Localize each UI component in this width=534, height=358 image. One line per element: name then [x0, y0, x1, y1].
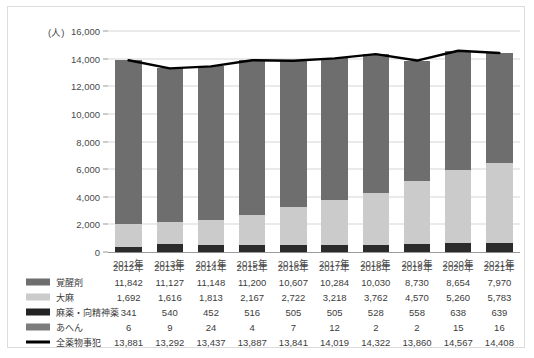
table-row: 覚醒剤11,84211,12711,14811,20010,60710,2841… — [8, 274, 526, 289]
table-cell: 1,616 — [158, 291, 182, 302]
figure-container: (人) 02,0004,0006,0008,00010,00012,00014,… — [7, 6, 525, 348]
legend-swatch-narc — [26, 308, 50, 315]
table-cell: 505 — [327, 306, 343, 317]
table-cell: 639 — [491, 306, 507, 317]
table-column-header: 2016年 — [278, 260, 309, 274]
table-cell: 452 — [203, 306, 219, 317]
table-cell: 13,881 — [114, 336, 143, 347]
table-column-header: 2020年 — [443, 260, 474, 274]
table-cell: 638 — [450, 306, 466, 317]
table-cell: 13,841 — [279, 336, 308, 347]
table-column-header: 2012年 — [113, 260, 144, 274]
table-cell: 2 — [373, 321, 378, 332]
table-cell: 14,322 — [361, 336, 390, 347]
table-cell: 11,127 — [156, 276, 184, 287]
table-cell: 7,970 — [488, 276, 512, 287]
table-column-header: 2019年 — [401, 260, 432, 274]
table-cell: 4 — [250, 321, 255, 332]
total-line-series — [8, 7, 526, 257]
table-row: あへん69244712221516 — [8, 319, 526, 334]
table-row: 大麻1,6921,6161,8132,1672,7223,2183,7624,5… — [8, 289, 526, 304]
table-cell: 11,148 — [197, 276, 225, 287]
table-cell: 14,408 — [485, 336, 514, 347]
table-cell: 12 — [329, 321, 340, 332]
table-cell: 3,218 — [323, 291, 347, 302]
table-cell: 24 — [206, 321, 217, 332]
table-cell: 528 — [368, 306, 384, 317]
table-cell: 11,842 — [114, 276, 142, 287]
legend-swatch-total — [26, 340, 50, 343]
table-cell: 13,860 — [402, 336, 431, 347]
table-cell: 15 — [453, 321, 464, 332]
table-row-label: 麻薬・向精神薬 — [56, 305, 119, 318]
table-row-label: 覚醒剤 — [56, 275, 83, 288]
table-cell: 13,292 — [155, 336, 184, 347]
table-cell: 8,730 — [405, 276, 429, 287]
table-row: 全薬物事犯13,88113,29213,43713,88713,84114,01… — [8, 334, 526, 349]
table-cell: 10,284 — [320, 276, 349, 287]
table-cell: 3,762 — [364, 291, 388, 302]
chart-area: (人) 02,0004,0006,0008,00010,00012,00014,… — [8, 7, 526, 257]
table-cell: 2 — [414, 321, 419, 332]
table-column-header: 2018年 — [360, 260, 391, 274]
table-row-label: 全薬物事犯 — [56, 335, 101, 348]
table-cell: 5,260 — [446, 291, 470, 302]
table-column-header: 2017年 — [319, 260, 350, 274]
table-cell: 13,437 — [196, 336, 225, 347]
table-cell: 341 — [121, 306, 137, 317]
table-cell: 6 — [126, 321, 131, 332]
table-cell: 540 — [162, 306, 178, 317]
data-table: 2012年2013年2014年2015年2016年2017年2018年2019年… — [8, 257, 526, 349]
table-cell: 5,783 — [488, 291, 512, 302]
table-cell: 13,887 — [238, 336, 267, 347]
table-cell: 7 — [291, 321, 296, 332]
legend-swatch-opi — [26, 323, 50, 330]
table-row: 麻薬・向精神薬341540452516505505528558638639 — [8, 304, 526, 319]
table-column-header: 2013年 — [154, 260, 185, 274]
table-cell: 1,692 — [117, 291, 141, 302]
total-line-path — [129, 51, 500, 69]
table-cell: 516 — [244, 306, 260, 317]
table-column-header: 2014年 — [195, 260, 226, 274]
legend-swatch-cann — [26, 293, 50, 300]
table-cell: 2,167 — [240, 291, 264, 302]
table-cell: 8,654 — [446, 276, 470, 287]
table-cell: 14,019 — [320, 336, 349, 347]
table-row-label: 大麻 — [56, 290, 74, 303]
table-cell: 10,607 — [279, 276, 308, 287]
table-cell: 505 — [285, 306, 301, 317]
table-cell: 4,570 — [405, 291, 429, 302]
table-cell: 9 — [167, 321, 172, 332]
table-cell: 10,030 — [361, 276, 390, 287]
table-cell: 558 — [409, 306, 425, 317]
table-column-header: 2021年 — [484, 260, 515, 274]
table-cell: 16 — [494, 321, 505, 332]
table-column-header: 2015年 — [237, 260, 268, 274]
table-cell: 11,200 — [238, 276, 266, 287]
legend-swatch-stim — [26, 278, 50, 285]
table-cell: 14,567 — [444, 336, 473, 347]
table-cell: 1,813 — [199, 291, 223, 302]
table-row-label: あへん — [56, 320, 83, 333]
table-header-row: 2012年2013年2014年2015年2016年2017年2018年2019年… — [8, 259, 526, 274]
table-cell: 2,722 — [282, 291, 306, 302]
